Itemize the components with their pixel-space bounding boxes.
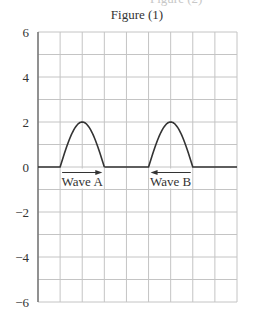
y-tick-labels: 6420−2−4−6 (15, 25, 29, 310)
wave-b-annotation: Wave B (150, 169, 192, 190)
y-tick-label: −4 (15, 250, 29, 265)
wave-label: Wave A (62, 174, 104, 189)
y-tick-label: −6 (15, 295, 29, 310)
y-tick-label: 4 (23, 70, 30, 85)
chart-plot: 6420−2−4−6 Wave AWave B (0, 0, 254, 315)
wave-a-annotation: Wave A (61, 169, 103, 190)
y-tick-label: 0 (23, 160, 30, 175)
y-tick-label: −2 (15, 205, 29, 220)
wave-label: Wave B (150, 174, 192, 189)
y-tick-label: 6 (23, 25, 30, 40)
y-tick-label: 2 (23, 115, 30, 130)
